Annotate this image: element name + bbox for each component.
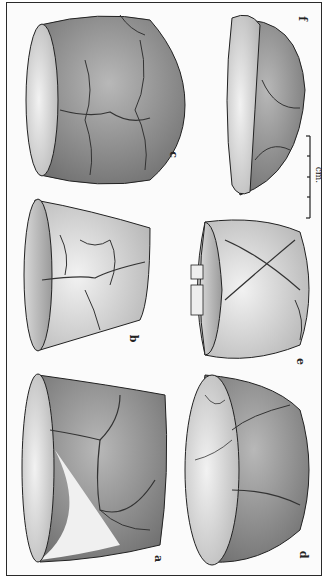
scale-bar bbox=[306, 136, 310, 218]
vessel-b bbox=[24, 199, 150, 351]
label-e: e bbox=[294, 358, 307, 365]
vessel-f bbox=[227, 15, 305, 195]
vessel-c bbox=[26, 15, 185, 184]
label-b: b bbox=[127, 335, 140, 343]
vessel-e bbox=[191, 220, 309, 358]
label-d: d bbox=[297, 551, 310, 559]
scale-unit-label: cm. bbox=[314, 167, 324, 183]
label-f: f bbox=[296, 16, 309, 21]
label-a: a bbox=[152, 555, 165, 562]
vessel-d bbox=[185, 375, 309, 565]
label-c: c bbox=[167, 151, 180, 158]
vessel-a bbox=[22, 374, 167, 562]
vessels-drawing bbox=[0, 0, 330, 585]
